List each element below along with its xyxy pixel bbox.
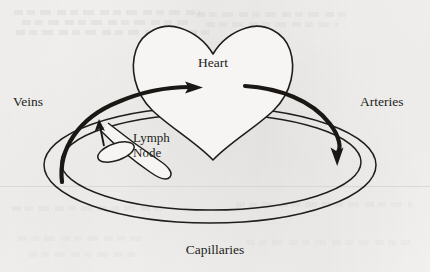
arteries-label: Arteries xyxy=(360,94,403,109)
circulatory-system-diagram: Heart Veins Arteries Lymph Node Capillar… xyxy=(0,0,430,272)
lymph-node-label-line2: Node xyxy=(133,145,161,160)
heart-label: Heart xyxy=(198,55,228,70)
lymph-node-label-line1: Lymph xyxy=(133,130,170,145)
veins-label: Veins xyxy=(13,94,43,109)
capillaries-label: Capillaries xyxy=(186,242,244,257)
figure-page: Heart Veins Arteries Lymph Node Capillar… xyxy=(0,0,430,272)
